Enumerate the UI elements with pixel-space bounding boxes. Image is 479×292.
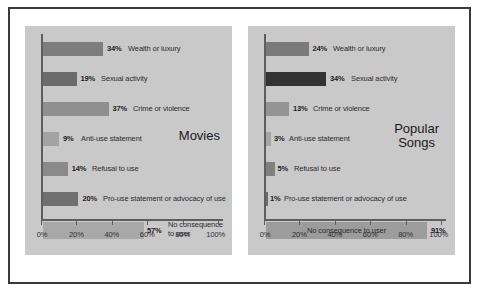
x-axis-tick: [218, 221, 219, 225]
bar-row: 37% Crime or violence: [43, 102, 223, 116]
bar-value-label: 1%: [270, 194, 281, 203]
x-axis-tick: [441, 221, 442, 225]
x-axis-tick: [406, 221, 407, 225]
x-axis-tick: [147, 221, 148, 225]
x-axis-tick-label: 40%: [104, 230, 119, 239]
x-axis-tick-label: 100%: [429, 230, 448, 239]
bar-no-consequence-to-user: [43, 222, 144, 239]
x-axis-tick: [183, 221, 184, 225]
figure-root: 34% Wealth or luxury 19% Sexual activity…: [0, 0, 479, 292]
x-axis-tick-label: 0%: [260, 230, 271, 239]
bar-value-label: 3%: [274, 134, 285, 143]
bar-row: 24% Wealth or luxury: [266, 42, 446, 56]
x-axis-tick: [76, 221, 77, 225]
x-axis-tick-label: 20%: [292, 230, 307, 239]
bar-row: 14% Refusal to use: [43, 162, 223, 176]
x-axis-tick-label: 60%: [140, 230, 155, 239]
chart-title-movies: Movies: [179, 129, 220, 143]
bar-value-label: 37%: [113, 104, 128, 113]
x-axis-tick: [370, 221, 371, 225]
bar-wealth-or-luxury: [266, 42, 309, 56]
x-axis-line: [264, 219, 446, 221]
bar-pro-use-statement: [266, 192, 268, 206]
bar-row: 5% Refusal to use: [266, 162, 446, 176]
bar-row: 34% Wealth or luxury: [43, 42, 223, 56]
bar-category-label: Crime or violence: [133, 104, 190, 113]
x-axis-tick: [112, 221, 113, 225]
bar-refusal-to-use: [266, 162, 275, 176]
bar-value-label: 14%: [72, 164, 87, 173]
bar-category-label: Pro-use statement or advocacy of use: [103, 194, 226, 203]
x-axis-tick: [264, 221, 265, 225]
bar-row: 1% Pro-use statement or advocacy of use: [266, 192, 446, 206]
x-axis-tick-label: 40%: [327, 230, 342, 239]
bar-category-label: Refusal to use: [92, 164, 139, 173]
bar-value-label: 19%: [81, 74, 96, 83]
bar-anti-use-statement: [266, 132, 271, 146]
x-axis-tick-label: 80%: [398, 230, 413, 239]
bar-value-label: 20%: [82, 194, 97, 203]
chart-panel-movies: 34% Wealth or luxury 19% Sexual activity…: [25, 26, 232, 255]
y-axis-line: [264, 34, 266, 221]
bar-value-label: 5%: [278, 164, 289, 173]
bar-row: 13% Crime or violence: [266, 102, 446, 116]
bar-crime-or-violence: [43, 102, 109, 116]
bar-anti-use-statement: [43, 132, 59, 146]
bar-value-label: 34%: [330, 74, 345, 83]
bar-pro-use-statement: [43, 192, 78, 206]
bar-value-label: 9%: [63, 134, 74, 143]
bar-refusal-to-use: [43, 162, 68, 176]
x-axis-tick-label: 0%: [37, 230, 48, 239]
bar-category-label: Refusal to use: [294, 164, 341, 173]
bar-row: 19% Sexual activity: [43, 72, 223, 86]
x-axis-tick-label: 20%: [69, 230, 84, 239]
bar-row: 20% Pro-use statement or advocacy of use: [43, 192, 223, 206]
x-axis-tick-label: 100%: [206, 230, 225, 239]
bar-category-label: Pro-use statement or advocacy of use: [284, 194, 407, 203]
bar-sexual-activity: [266, 72, 326, 86]
x-axis-tick: [299, 221, 300, 225]
x-axis-tick: [335, 221, 336, 225]
bar-category-label: Wealth or luxury: [333, 44, 385, 53]
bar-category-label: Crime or violence: [313, 104, 370, 113]
bar-sexual-activity: [43, 72, 77, 86]
bar-category-label: Anti-use statement: [289, 134, 350, 143]
bar-value-label: 34%: [107, 44, 122, 53]
bar-category-label: Sexual activity: [351, 74, 397, 83]
bar-value-label: 24%: [313, 44, 328, 53]
bar-row: 34% Sexual activity: [266, 72, 446, 86]
bar-wealth-or-luxury: [43, 42, 103, 56]
x-axis-tick-label: 60%: [363, 230, 378, 239]
chart-title-popular-songs: Popular Songs: [394, 122, 439, 150]
bar-category-label: Wealth or luxury: [128, 44, 180, 53]
bar-category-label: Anti-use statement: [81, 134, 142, 143]
y-axis-line: [41, 34, 43, 221]
chart-panel-popular-songs: 24% Wealth or luxury 34% Sexual activity…: [248, 26, 455, 255]
x-axis-tick-label: 80%: [175, 230, 190, 239]
x-axis-tick: [41, 221, 42, 225]
x-axis-line: [41, 219, 223, 221]
bar-crime-or-violence: [266, 102, 289, 116]
bar-category-label: Sexual activity: [101, 74, 147, 83]
bar-value-label: 13%: [293, 104, 308, 113]
